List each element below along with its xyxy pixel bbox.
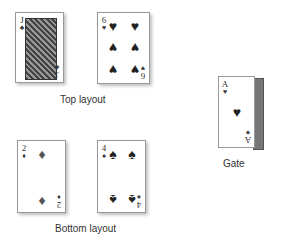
heart-icon: ♥	[128, 19, 142, 33]
card-rank: 6	[139, 72, 147, 80]
diamond-icon: ♦	[35, 193, 49, 207]
diamond-icon: ♦	[55, 193, 63, 201]
card-four-spades[interactable]: 4 ♠ ♠ ♠ ♠ ♠ 4 ♠	[97, 140, 146, 213]
card-rank: J	[53, 71, 61, 79]
diamond-icon: ♦	[20, 152, 28, 160]
card-rank: A	[221, 80, 229, 88]
card-rank: 4	[135, 201, 143, 209]
card-rank: A	[244, 136, 252, 144]
heart-icon: ♥	[221, 88, 229, 96]
spade-icon: ♠	[125, 147, 139, 161]
top-layout-label: Top layout	[60, 94, 106, 105]
heart-icon: ♥	[106, 41, 120, 55]
gate-label: Gate	[223, 158, 245, 169]
spade-icon: ♠	[106, 193, 120, 207]
card-jack-clubs[interactable]: J ♣ J ♣	[15, 12, 64, 83]
bottom-layout-label: Bottom layout	[55, 223, 116, 234]
card-index: 2 ♦	[55, 193, 63, 209]
card-index: 6 ♥	[139, 64, 147, 80]
club-icon: ♣	[53, 63, 61, 71]
card-index: 2 ♦	[20, 144, 28, 160]
card-index: 4 ♠	[135, 193, 143, 209]
heart-icon: ♥	[139, 64, 147, 72]
spade-icon: ♠	[106, 147, 120, 161]
card-two-diamonds[interactable]: 2 ♦ ♦ ♦ 2 ♦	[17, 140, 66, 213]
card-rank: 2	[20, 144, 28, 152]
diamond-icon: ♦	[35, 147, 49, 161]
card-ace-hearts[interactable]: A ♥ ♥ A ♥	[218, 76, 255, 148]
heart-icon: ♥	[106, 63, 120, 77]
heart-icon: ♥	[128, 41, 142, 55]
spade-icon: ♠	[135, 193, 143, 201]
card-six-hearts[interactable]: 6 ♥ ♥ ♥ ♥ ♥ ♥ ♥ 6 ♥	[97, 12, 150, 84]
heart-icon: ♥	[106, 19, 120, 33]
card-index: A ♥	[221, 80, 229, 96]
heart-icon: ♥	[230, 105, 244, 119]
card-index: A ♥	[244, 128, 252, 144]
card-rank: 2	[55, 201, 63, 209]
card-index: J ♣	[53, 63, 61, 79]
